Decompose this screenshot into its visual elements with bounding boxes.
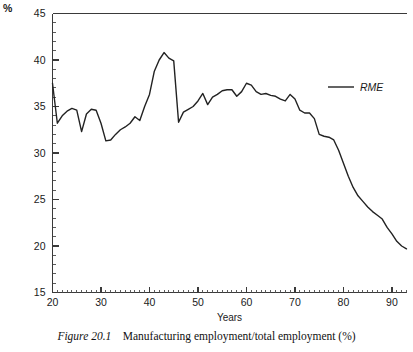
line-chart: 152025303540452030405060708090%Years RME (0, 0, 413, 352)
series-line-rme (53, 53, 407, 249)
y-tick-label: 30 (34, 147, 46, 159)
x-axis-title: Years (217, 312, 242, 323)
figure-caption-label: Figure 20.1 (57, 330, 111, 342)
ticks-group (53, 14, 407, 293)
y-tick-label: 45 (34, 7, 46, 19)
y-tick-label: 15 (34, 286, 46, 298)
x-tick-label: 40 (144, 296, 156, 308)
axis-labels-group: 152025303540452030405060708090%Years (3, 2, 398, 323)
axes-group (53, 14, 407, 293)
figure-caption: Figure 20.1 Manufacturing employment/tot… (0, 330, 413, 342)
figure-caption-text: Manufacturing employment/total employmen… (111, 330, 355, 342)
y-tick-label: 20 (34, 240, 46, 252)
legend-label: RME (360, 81, 384, 93)
y-tick-label: 40 (34, 54, 46, 66)
x-tick-label: 60 (241, 296, 253, 308)
y-axis-unit-label: % (3, 2, 13, 14)
y-tick-label: 35 (34, 100, 46, 112)
x-tick-label: 70 (289, 296, 301, 308)
chart-legend: RME (328, 81, 384, 93)
x-tick-label: 50 (192, 296, 204, 308)
x-tick-label: 80 (338, 296, 350, 308)
figure-container: 152025303540452030405060708090%Years RME… (0, 0, 413, 352)
x-tick-label: 20 (47, 296, 59, 308)
data-series-group (53, 53, 407, 249)
x-tick-label: 30 (95, 296, 107, 308)
y-tick-label: 25 (34, 193, 46, 205)
x-tick-label: 90 (386, 296, 398, 308)
